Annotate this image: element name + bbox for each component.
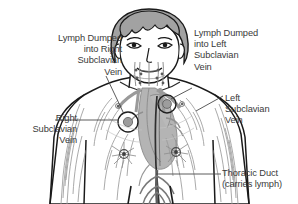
lymphatic-system-diagram: Lymph Dumped into Right Subclavian Vein … xyxy=(0,0,298,204)
label-lymph-dumped-into-left-subclavian-vein: Lymph Dumped into Left Subclavian Vein xyxy=(194,28,294,73)
label-right-subclavian-vein: Right Subclavian Vein xyxy=(1,113,77,147)
label-thoracic-duct-carries-lymph: Thoracic Duct (carries lymph) xyxy=(222,168,298,190)
label-lymph-dumped-into-right-subclavian-vein: Lymph Dumped into Right Subclavian Vein xyxy=(26,33,122,78)
label-left-subclavian-vein: Left Subclavian Vein xyxy=(225,93,297,127)
